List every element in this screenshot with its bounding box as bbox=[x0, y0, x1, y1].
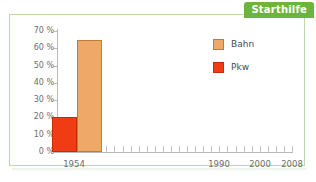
legend-item-pkw[interactable]: Pkw bbox=[213, 59, 254, 75]
starthilfe-badge[interactable]: Starthilfe bbox=[244, 2, 314, 18]
legend-item-bahn[interactable]: Bahn bbox=[213, 36, 254, 52]
legend-label-bahn: Bahn bbox=[231, 39, 254, 49]
panel-shadow bbox=[12, 168, 306, 170]
pkw-swatch-icon bbox=[213, 62, 224, 73]
legend-label-pkw: Pkw bbox=[231, 62, 249, 72]
chart-legend: Bahn Pkw bbox=[213, 36, 254, 82]
chart-panel bbox=[9, 14, 305, 166]
chart-widget: Starthilfe 0 %10 %20 %30 %40 %50 %60 %70… bbox=[0, 0, 316, 182]
bahn-swatch-icon bbox=[213, 39, 224, 50]
